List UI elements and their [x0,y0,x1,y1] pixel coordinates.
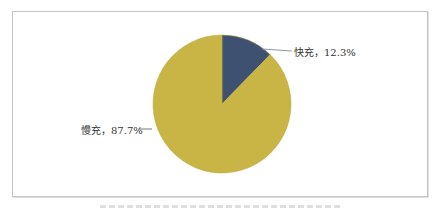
pie-chart [0,0,435,208]
slice-label-slow: 慢充，87.7% [81,122,143,137]
leader-line-fast [262,49,292,51]
figure-caption-clipped [100,202,340,208]
slice-label-fast: 快充，12.3% [294,44,356,59]
pie-slice-slow [153,35,291,173]
